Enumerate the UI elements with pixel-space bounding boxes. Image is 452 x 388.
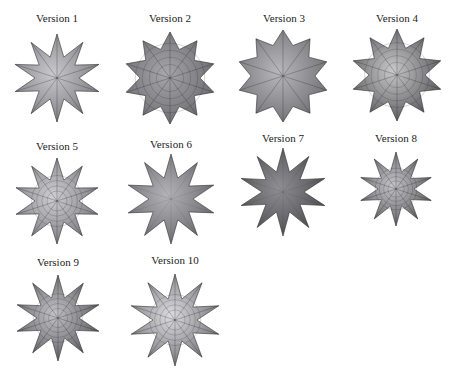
version-label: Version 5 — [36, 140, 78, 152]
polyhedron-render-icon — [9, 30, 105, 126]
polyhedron-render-icon — [355, 148, 437, 230]
polyhedron-render-icon — [233, 26, 333, 126]
version-label: Version 2 — [149, 12, 191, 24]
version-label: Version 7 — [262, 132, 304, 144]
version-label: Version 6 — [150, 138, 192, 150]
polyhedron-render-icon — [125, 270, 225, 370]
polyhedron-render-icon — [11, 271, 105, 365]
version-label: Version 8 — [375, 132, 417, 144]
version-label: Version 9 — [37, 256, 79, 268]
version-label: Version 1 — [36, 12, 78, 24]
polyhedron-render-icon — [347, 25, 447, 125]
polyhedron-render-icon — [122, 150, 220, 248]
polyhedron-render-icon — [10, 154, 104, 248]
version-label: Version 4 — [376, 12, 418, 24]
polyhedron-render-icon — [235, 144, 331, 240]
version-label: Version 10 — [151, 254, 198, 266]
version-label: Version 3 — [263, 12, 305, 24]
polyhedron-render-icon — [120, 28, 220, 128]
